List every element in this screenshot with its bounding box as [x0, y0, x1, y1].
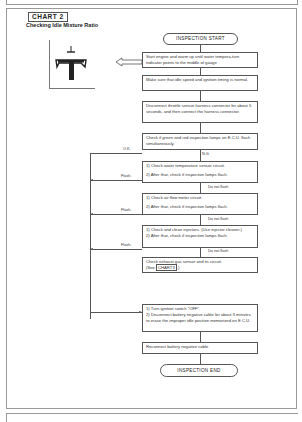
- connector: [200, 332, 201, 342]
- connector: [200, 123, 201, 133]
- page-bottom-border: [6, 413, 298, 422]
- step-text: Disconnect throttle sensor harness conne…: [146, 103, 251, 114]
- do-not-flash-label: Do not flash: [208, 185, 228, 189]
- step-text: Check if green and red inspection lamps …: [146, 135, 250, 146]
- connector: [200, 45, 201, 52]
- step-throttle-sensor: Disconnect throttle sensor harness conne…: [142, 101, 258, 123]
- step-air-flow: 1) Check air flow meter circuit. 2) Afte…: [142, 193, 258, 215]
- step-text: 1) Check water temperature sensor circui…: [146, 163, 254, 169]
- connector: [200, 354, 201, 364]
- chart-title: Checking Idle Mixture Ratio: [26, 22, 98, 28]
- step-water-temp: 1) Check water temperature sensor circui…: [142, 161, 258, 183]
- step-text: 2) Disconnect battery negative cable for…: [146, 312, 254, 324]
- page-top-border: [6, 0, 298, 5]
- chart-tag: CHART 2: [28, 12, 68, 22]
- ng-label: N.G.: [202, 152, 210, 156]
- flash-label: Flash.: [121, 243, 131, 247]
- ok-branch-line: [90, 153, 142, 154]
- connector: [200, 248, 201, 257]
- flash-label: Flash.: [121, 174, 131, 178]
- flash-label: Flash.: [121, 208, 131, 212]
- arrow-left-icon: [90, 248, 93, 250]
- illustration-panel: [49, 40, 95, 89]
- step-exhaust-sensor: Check exhaust gas sensor and its circuit…: [142, 257, 258, 273]
- arrow-right-icon: [139, 311, 142, 313]
- merge-line: [90, 312, 142, 313]
- ref-prefix: (See: [146, 265, 155, 270]
- inspection-end-terminal: INSPECTION END: [160, 364, 238, 377]
- flash-branch-line: [90, 180, 142, 181]
- arrow-left-icon: [90, 179, 93, 181]
- do-not-flash-label: Do not flash: [208, 249, 228, 253]
- flash-branch-line: [90, 249, 142, 250]
- connector: [200, 150, 201, 161]
- step-text: Reconnect battery negative cable.: [146, 344, 209, 349]
- step-text: 2) After that, check if inspection lamps…: [146, 172, 254, 178]
- step-text: Start engine and warm up until water tem…: [146, 54, 239, 65]
- connector: [200, 215, 201, 225]
- step-reconnect-battery: Reconnect battery negative cable.: [142, 342, 258, 354]
- inspection-start-terminal: INSPECTION START: [163, 33, 238, 45]
- connector: [200, 183, 201, 193]
- step-text: 1) Check air flow meter circuit.: [146, 195, 254, 201]
- connector: [200, 91, 201, 101]
- arrow-left-icon: [90, 213, 93, 215]
- do-not-flash-label: Do not flash: [208, 217, 228, 221]
- step-text: Make sure that idle speed and ignition t…: [146, 77, 248, 82]
- connector: [200, 68, 201, 75]
- idle-mixture-adjust-screw-icon: [50, 40, 95, 88]
- step-warm-up: Start engine and warm up until water tem…: [142, 52, 258, 68]
- ref-suffix: .): [177, 265, 180, 270]
- step-reset-ecu: 1) Turn ignition switch "OFF". 2) Discon…: [142, 304, 258, 332]
- pointer-arrow-icon: [115, 57, 143, 67]
- step-idle-check: Make sure that idle speed and ignition t…: [142, 75, 258, 91]
- step-injectors: 1) Check and clean injectors. (Use injec…: [142, 225, 258, 248]
- step-text: 2) After that, check if inspection lamps…: [146, 233, 254, 239]
- chart3-reference-link[interactable]: CHART3: [156, 264, 177, 271]
- step-text: 2) After that, check if inspection lamps…: [146, 204, 254, 210]
- ok-label: O.K.: [123, 147, 131, 151]
- step-check-lamps: Check if green and red inspection lamps …: [142, 133, 258, 150]
- flash-branch-line: [90, 214, 142, 215]
